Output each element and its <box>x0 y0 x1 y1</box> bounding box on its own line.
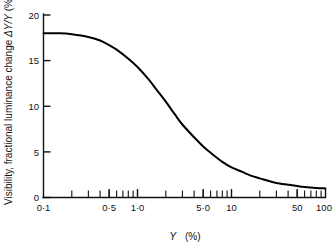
y-tick-label-10: 10 <box>28 101 39 112</box>
x-tick-label-0-1: 0·1 <box>37 202 51 213</box>
visibility-curve <box>44 33 326 188</box>
x-tick-label-0-5: 0·5 <box>102 202 116 213</box>
x-tick-label-1-0: 1·0 <box>131 202 145 213</box>
x-tick-label-5-0: 5·0 <box>196 202 210 213</box>
y-axis-title: Visibility, fractional luminance change … <box>3 0 14 205</box>
line-chart: 20 15 10 5 0 <box>0 0 336 250</box>
y-axis-tick-labels: 20 15 10 5 0 <box>28 10 39 204</box>
y-tick-label-20: 20 <box>28 10 39 21</box>
y-axis-title-part1: Visibility, fractional luminance change <box>3 37 14 205</box>
x-axis-tick-labels: 0·1 0·5 1·0 5·0 10 50 100 <box>37 202 332 213</box>
y-axis-title-symbol: ΔY/Y <box>3 13 14 38</box>
y-tick-label-15: 15 <box>28 55 39 66</box>
x-axis-title-variable: Y <box>169 231 177 242</box>
y-axis-ticks <box>44 15 51 198</box>
y-tick-label-5: 5 <box>34 147 39 158</box>
y-axis-title-part2: (%) <box>3 0 14 14</box>
axis-lines <box>43 14 326 198</box>
x-tick-label-100: 100 <box>316 202 332 213</box>
x-axis-title: Y (%) <box>169 231 200 242</box>
x-tick-label-50: 50 <box>292 202 303 213</box>
figure-container: 20 15 10 5 0 <box>0 0 336 250</box>
x-tick-label-10: 10 <box>226 202 237 213</box>
x-axis-title-unit: (%) <box>185 231 201 242</box>
